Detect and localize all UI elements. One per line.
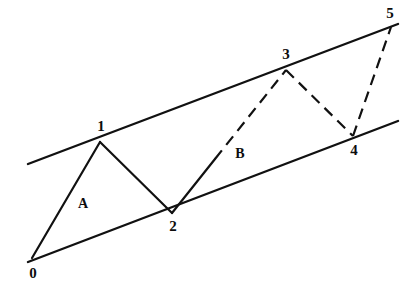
diagram-canvas: 0 1 2 3 4 5 A B <box>0 0 420 296</box>
point-label-4: 4 <box>350 142 358 158</box>
wave-label-a: A <box>78 196 89 211</box>
channel-lines-group <box>28 24 398 262</box>
dashed-projection-path-group <box>215 27 391 159</box>
segment-2-to-3-solid-portion <box>172 159 215 213</box>
segment-2-to-3-dashed-portion <box>215 70 286 159</box>
point-label-0: 0 <box>29 265 37 281</box>
segment-1-to-2 <box>100 142 172 213</box>
segment-3-to-4 <box>286 70 353 136</box>
point-label-2: 2 <box>169 218 177 234</box>
segment-4-to-5 <box>353 27 391 136</box>
point-label-1: 1 <box>97 118 105 134</box>
point-label-5: 5 <box>386 5 394 21</box>
wave-label-b: B <box>235 146 244 161</box>
point-label-3: 3 <box>282 46 290 62</box>
wave-channel-diagram: 0 1 2 3 4 5 A B <box>0 0 420 296</box>
